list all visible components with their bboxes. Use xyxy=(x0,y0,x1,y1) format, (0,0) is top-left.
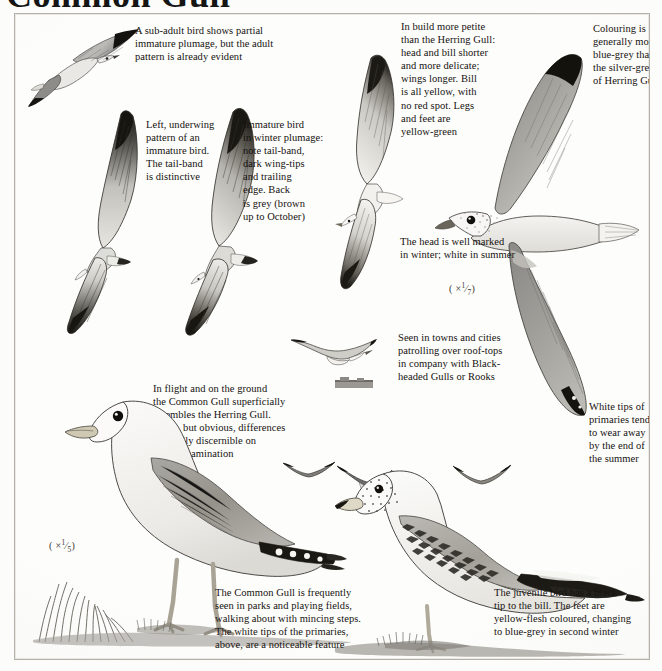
scale-numerator: 1 xyxy=(61,538,65,547)
illustration-plate: A sub-adult bird shows partial immature … xyxy=(14,13,650,660)
scale-numerator: 1 xyxy=(461,281,465,290)
page-title: Common Gull xyxy=(6,0,231,14)
caption-colouring: Colouring is generally more blue-grey th… xyxy=(593,22,650,87)
scale-flying: ( ×1⁄7) xyxy=(449,281,475,297)
page-title-strip: Common Gull Larus canus xyxy=(0,0,662,14)
caption-head-marking: The head is well marked in winter; white… xyxy=(400,235,580,261)
scale-standing: ( ×1⁄5) xyxy=(49,538,75,554)
scientific-name: Larus canus xyxy=(237,0,286,1)
figure-sub-adult-gull-flying xyxy=(19,20,149,110)
guide-page: Common Gull Larus canus xyxy=(0,0,662,671)
scale-prefix: ( × xyxy=(449,283,461,294)
scale-suffix: ) xyxy=(471,283,475,294)
scale-suffix: ) xyxy=(71,540,75,551)
figure-small-gull-soaring xyxy=(287,330,379,372)
caption-towns: Seen in towns and cities patrolling over… xyxy=(398,331,558,383)
caption-parks: The Common Gull is frequently seen in pa… xyxy=(215,586,435,651)
caption-white-tips: White tips of primaries tend to wear awa… xyxy=(589,400,650,465)
scale-prefix: ( × xyxy=(49,540,61,551)
caption-juvenile: The juvenile bird has a black tip to the… xyxy=(494,586,650,638)
